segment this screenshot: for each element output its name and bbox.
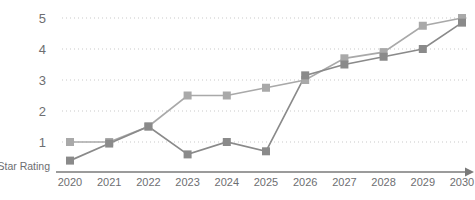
x-axis-tick-label: 2029 (411, 176, 435, 188)
data-point-marker (262, 84, 270, 92)
y-axis-tick-label: 5 (39, 11, 46, 26)
data-point-marker (340, 61, 348, 69)
x-axis-tick-label: 2022 (136, 176, 160, 188)
y-axis-tick-label: 3 (39, 73, 46, 88)
data-point-marker (458, 19, 466, 27)
data-point-marker (262, 147, 270, 155)
data-point-marker (223, 92, 231, 100)
data-point-marker (105, 140, 113, 148)
data-point-marker (223, 138, 231, 146)
data-point-marker (184, 150, 192, 158)
y-axis-tick-label: 4 (39, 42, 46, 57)
x-axis-tick-label: 2027 (332, 176, 356, 188)
data-point-marker (184, 92, 192, 100)
y-axis-tick-label: 1 (39, 135, 46, 150)
y-axis-title: Star Rating (0, 160, 50, 172)
x-axis-tick-label: 2030 (450, 176, 474, 188)
x-axis-tick-label: 2026 (293, 176, 317, 188)
y-axis-tick-labels: 12345 (39, 11, 46, 150)
x-axis-tick-label: 2020 (58, 176, 82, 188)
line-chart: 12345 2020202120222023202420252026202720… (0, 0, 475, 200)
gridlines (62, 18, 470, 142)
x-axis-tick-label: 2021 (97, 176, 121, 188)
chart-container: 12345 2020202120222023202420252026202720… (0, 0, 475, 200)
data-point-marker (144, 123, 152, 131)
data-point-marker (419, 22, 427, 30)
x-axis-tick-label: 2024 (215, 176, 239, 188)
data-point-marker (66, 138, 74, 146)
y-axis-tick-label: 2 (39, 104, 46, 119)
data-point-marker (66, 157, 74, 165)
data-point-marker (419, 45, 427, 53)
data-point-marker (380, 53, 388, 61)
x-axis-tick-label: 2028 (371, 176, 395, 188)
data-point-marker (301, 71, 309, 79)
x-axis-tick-label: 2025 (254, 176, 278, 188)
x-axis-tick-label: 2023 (175, 176, 199, 188)
x-axis-tick-labels: 2020202120222023202420252026202720282029… (58, 176, 474, 188)
